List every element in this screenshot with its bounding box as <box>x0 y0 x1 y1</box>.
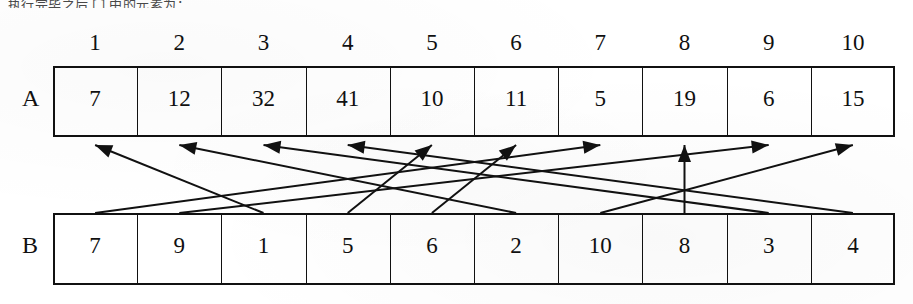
arrow-b3-to-a1 <box>95 145 263 213</box>
arrow-b5-to-a6 <box>432 145 516 213</box>
arrow-b6-to-a2 <box>179 142 516 213</box>
mapping-arrow-layer <box>0 0 913 304</box>
arrow-b7-to-a10 <box>600 143 853 213</box>
arrow-b2-to-a9 <box>179 140 768 213</box>
arrow-b1-to-a7 <box>95 141 600 213</box>
